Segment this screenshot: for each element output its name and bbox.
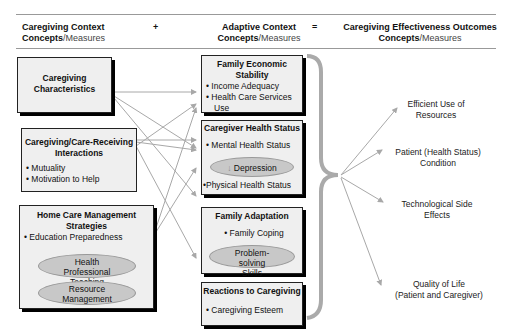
outcome-quality-of-life: Quality of Life(Patient and Caregiver) [384, 279, 494, 301]
ellipse-problem-solving-skills: Problem-solving Skills [209, 245, 295, 268]
outcome-technological-side-effects: Technological SideEffects [392, 199, 482, 221]
outcome-efficient-use-of-resources: Efficient Use ofResources [396, 99, 476, 121]
ellipse-health-professional-teaching: Health Professional Teaching [38, 254, 136, 278]
ellipse-depression: ↓ Depression [210, 157, 294, 177]
outcome-patient-condition: Patient (Health Status)Condition [383, 147, 493, 169]
box-home-care-management: Home Care Management Strategies • Educat… [19, 205, 154, 309]
box-reactions-to-caregiving: Reactions to Caregiving • Caregiving Est… [201, 282, 303, 326]
ellipse-resource-management: Resource Management [38, 281, 136, 305]
box-family-adaptation: Family Adaptation • Family Coping Proble… [201, 207, 303, 274]
box-caregiving-characteristics: Caregiving Characteristics [17, 57, 112, 113]
box-family-economic-stability: Family Economic Stability • Income Adequ… [201, 55, 303, 113]
box-caregiving-interactions: Caregiving/Care-Receiving Interactions •… [21, 128, 137, 192]
box-caregiver-health-status: Caregiver Health Status • Mental Health … [201, 120, 303, 195]
curly-brace [307, 56, 338, 318]
down-arrow-icon: ↓ [227, 163, 231, 173]
